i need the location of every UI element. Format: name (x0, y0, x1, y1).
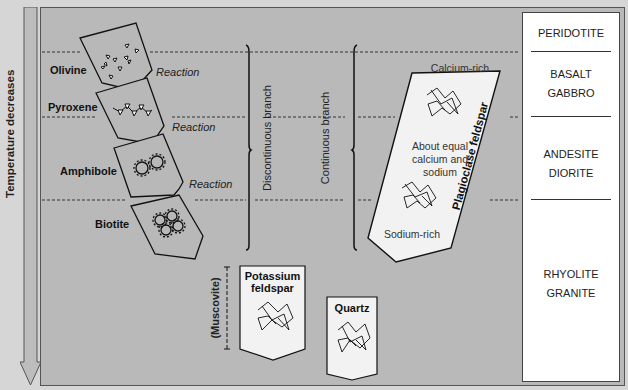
sodium-rich-label: Sodium-rich (372, 228, 452, 241)
calcium-rich-label: Calcium-rich (420, 62, 500, 75)
discontinuous-brace (246, 45, 251, 250)
rock-divider (531, 51, 611, 52)
rock-rhyolite: RHYOLITE (523, 268, 619, 280)
rock-divider (531, 116, 611, 117)
mineral-label-olivine: Olivine (50, 64, 87, 76)
rock-divider (531, 199, 611, 200)
middle-composition-label: About equal calcium and sodium (395, 140, 485, 179)
continuous-brace (352, 45, 357, 250)
muscovite-range-marker (224, 267, 230, 349)
pyroxene-box (96, 78, 164, 144)
mineral-label-pyroxene: Pyroxene (48, 101, 98, 113)
continuous-branch-label: Continuous branch (319, 78, 331, 198)
reaction-label-2: Reaction (172, 121, 215, 133)
muscovite-label: (Muscovite) (209, 273, 221, 343)
rock-type-column: PERIDOTITE BASALT GABBRO ANDESITE DIORIT… (522, 12, 620, 382)
quartz-label: Quartz (327, 302, 377, 314)
potassium-feldspar-label: Potassium feldspar (240, 270, 305, 294)
discontinuous-branch-label: Discontinuous branch (261, 78, 273, 198)
rock-peridotite: PERIDOTITE (523, 27, 619, 39)
reaction-label-1: Reaction (156, 66, 199, 78)
mineral-label-biotite: Biotite (95, 218, 129, 230)
amphibole-box (114, 134, 183, 197)
rock-granite: GRANITE (523, 287, 619, 299)
reaction-label-3: Reaction (189, 178, 232, 190)
rock-gabbro: GABBRO (523, 87, 619, 99)
mineral-label-amphibole: Amphibole (60, 165, 117, 177)
rock-andesite: ANDESITE (523, 148, 619, 160)
biotite-box (131, 195, 203, 259)
rock-basalt: BASALT (523, 68, 619, 80)
rock-diorite: DIORITE (523, 167, 619, 179)
